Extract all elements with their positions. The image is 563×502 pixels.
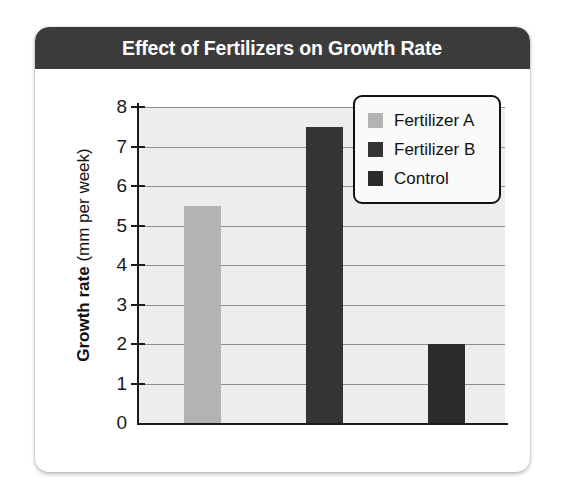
y-axis-tick xyxy=(131,225,145,227)
y-axis-tick xyxy=(131,106,145,108)
y-axis-tick-label: 2 xyxy=(103,334,127,353)
y-axis-title-light: (mm per week) xyxy=(74,148,93,261)
bar-fertilizer-a xyxy=(184,206,221,423)
plot-wrap: 012345678 Growth rate (mm per week) Fert… xyxy=(35,27,530,472)
x-axis-line xyxy=(137,423,508,425)
legend-item: Fertilizer B xyxy=(355,135,499,164)
y-axis-tick-label: 5 xyxy=(103,216,127,235)
y-axis-tick xyxy=(131,264,145,266)
legend-item: Control xyxy=(355,164,499,193)
y-axis-tick-label: 4 xyxy=(103,255,127,274)
legend-label: Fertilizer B xyxy=(394,140,475,160)
y-axis-tick-label: 3 xyxy=(103,295,127,314)
y-axis-tick-label: 0 xyxy=(103,413,127,432)
y-axis-title: Growth rate (mm per week) xyxy=(74,120,94,390)
y-axis-tick xyxy=(131,185,145,187)
y-axis-tick xyxy=(131,146,145,148)
bar-fertilizer-b xyxy=(306,127,343,423)
y-axis-title-bold: Growth rate xyxy=(74,266,93,361)
y-axis-tick-label: 7 xyxy=(103,137,127,156)
bar-control xyxy=(428,344,465,423)
y-axis-tick xyxy=(131,304,145,306)
legend-item: Fertilizer A xyxy=(355,106,499,135)
y-axis-tick-label: 8 xyxy=(103,97,127,116)
y-axis-tick-labels: 012345678 xyxy=(97,27,127,472)
y-axis-tick xyxy=(131,383,145,385)
chart-card: Effect of Fertilizers on Growth Rate 012… xyxy=(35,27,530,472)
legend-swatch-icon xyxy=(368,142,383,157)
chart-legend: Fertilizer AFertilizer BControl xyxy=(353,95,501,204)
y-axis-tick-label: 1 xyxy=(103,374,127,393)
y-axis-tick xyxy=(131,343,145,345)
legend-label: Fertilizer A xyxy=(394,111,474,131)
legend-swatch-icon xyxy=(368,171,383,186)
legend-label: Control xyxy=(394,169,449,189)
y-axis-tick-label: 6 xyxy=(103,176,127,195)
legend-swatch-icon xyxy=(368,113,383,128)
